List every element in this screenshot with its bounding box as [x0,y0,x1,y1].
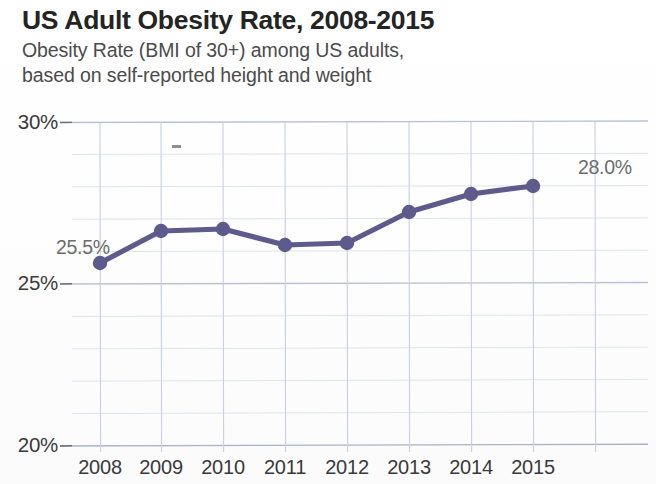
y-axis-ticks [60,122,72,446]
data-markers [93,179,540,270]
data-point-2011 [278,238,292,252]
data-point-2010 [216,222,230,236]
x-tick-label-2011: 2011 [250,456,320,479]
x-tick-label-2008: 2008 [65,456,135,479]
y-tick-label-20: 20% [0,433,58,457]
x-tick-label-2015: 2015 [498,456,568,479]
x-tick-label-2014: 2014 [436,456,506,479]
data-label-2008: 25.5% [56,236,110,259]
y-tick-label-30: 30% [0,110,58,134]
data-point-2012 [340,236,354,250]
data-point-2015 [526,179,540,193]
data-point-2013 [402,205,416,219]
chart-figure: US Adult Obesity Rate, 2008-2015 Obesity… [0,0,656,484]
x-tick-label-2012: 2012 [312,456,382,479]
x-tick-label-2009: 2009 [126,456,196,479]
gridlines-vertical [100,121,596,452]
y-tick-label-25: 25% [0,271,58,295]
data-point-2014 [464,187,478,201]
scan-artifact-speck [172,145,181,148]
x-tick-label-2010: 2010 [188,456,258,479]
x-tick-label-2013: 2013 [374,456,444,479]
data-label-2015: 28.0% [578,156,632,179]
data-point-2009 [154,224,168,238]
major-gridlines-horizontal [60,121,648,446]
